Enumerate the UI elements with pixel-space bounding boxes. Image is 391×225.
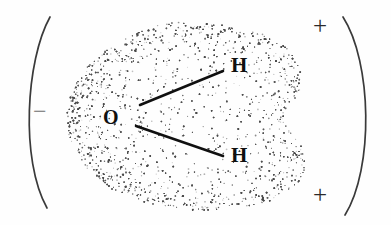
water-molecule-polarity-figure: O H H − + + [0, 0, 391, 225]
atom-label-oxygen: O [103, 107, 119, 127]
arc-right [343, 17, 366, 215]
bonds-and-field-arcs [0, 0, 391, 225]
atom-label-hydrogen-upper: H [231, 55, 248, 76]
atom-label-hydrogen-lower: H [231, 145, 248, 166]
bond-o-h-upper [140, 71, 223, 105]
bond-o-h-lower [136, 126, 223, 156]
charge-positive-bottom-symbol: + [313, 182, 327, 207]
charge-positive-top-symbol: + [313, 13, 327, 38]
charge-negative-symbol: − [33, 99, 47, 123]
